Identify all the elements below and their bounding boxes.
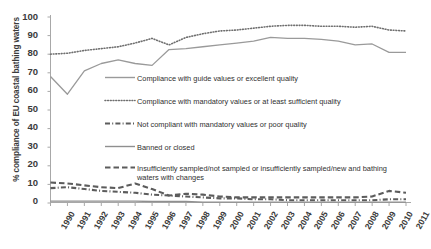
series-line-2 xyxy=(51,187,407,200)
series-line-1 xyxy=(51,25,407,54)
legend-label-banned: Banned or closed xyxy=(137,143,195,152)
legend-label-noncompliant: Not compliant with mandatory values or p… xyxy=(137,120,307,129)
series-line-3 xyxy=(51,201,407,202)
series-line-0 xyxy=(51,37,407,94)
legend-label-mandatory: Compliance with mandatory values or at l… xyxy=(137,97,341,106)
x-tick-2011: 2011 xyxy=(414,210,431,230)
legend-label-insufficient: Insufficiently sampled/not sampled or in… xyxy=(137,164,405,183)
series-line-4 xyxy=(51,183,407,198)
x-axis-tick-marks xyxy=(51,203,407,206)
legend-label-guide: Compliance with guide values or excellen… xyxy=(137,74,298,83)
